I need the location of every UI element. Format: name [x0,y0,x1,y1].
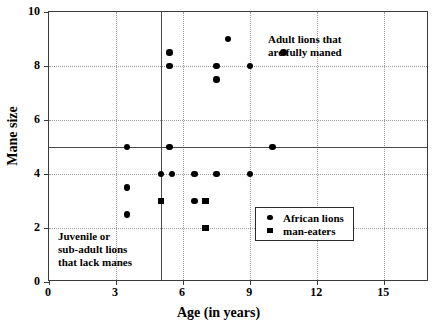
y-axis-tick-label: 6 [16,112,40,127]
y-axis-tick [44,12,49,13]
y-axis-tick [44,120,49,121]
gridline-vertical [250,12,251,280]
y-axis-tick-label: 4 [16,166,40,181]
data-point [169,171,176,178]
y-axis-title: Mane size [5,61,21,211]
square-marker-icon [261,228,279,234]
gridline-horizontal [49,66,427,67]
annotation-adult-lions: Adult lions that are fully maned [268,33,342,59]
reference-line-age [161,12,162,280]
data-point [269,144,276,151]
x-axis-tick-label: 3 [112,285,118,300]
data-point [202,198,208,204]
data-point [124,184,131,191]
legend-item-label: African lions [279,212,344,224]
legend-item: man-eaters [261,224,344,237]
y-axis-tick [44,66,49,67]
y-axis-tick-label: 10 [16,4,40,19]
data-point [158,171,165,178]
data-point [247,63,254,70]
data-point [213,171,220,178]
y-axis-tick-label: 2 [16,220,40,235]
x-axis-tick-label: 6 [179,285,185,300]
annotation-juvenile-lions: Juvenile or sub-adult lions that lack ma… [58,230,132,269]
data-point [124,211,131,218]
legend-item: African lions [261,211,344,224]
legend-item-label: man-eaters [279,225,336,237]
data-point [158,198,164,204]
data-point [202,225,208,231]
scatter-plot-figure: Mane size Age (in years) African lionsma… [0,0,437,334]
x-axis-tick-label: 12 [310,285,322,300]
circle-marker-icon [261,215,279,221]
y-axis-tick-label: 8 [16,58,40,73]
y-axis-tick-label: 0 [16,274,40,289]
gridline-horizontal [49,228,427,229]
x-axis-title: Age (in years) [0,305,437,321]
data-point [191,171,198,178]
x-axis-tick-label: 0 [45,285,51,300]
x-axis-tick-label: 15 [377,285,389,300]
data-point [247,171,254,178]
gridline-vertical [183,12,184,280]
y-axis-tick [44,282,49,283]
y-axis-tick [44,228,49,229]
y-axis-tick [44,174,49,175]
data-point [213,63,220,70]
data-point [124,144,131,151]
data-point [191,198,198,205]
legend: African lionsman-eaters [255,207,354,241]
data-point [166,49,173,56]
gridline-horizontal [49,174,427,175]
data-point [166,144,173,151]
x-axis-tick-label: 9 [246,285,252,300]
data-point [213,76,220,83]
reference-line-mane-size [49,147,427,148]
data-point [225,36,232,43]
gridline-vertical [384,12,385,280]
data-point [166,63,173,70]
gridline-horizontal [49,120,427,121]
